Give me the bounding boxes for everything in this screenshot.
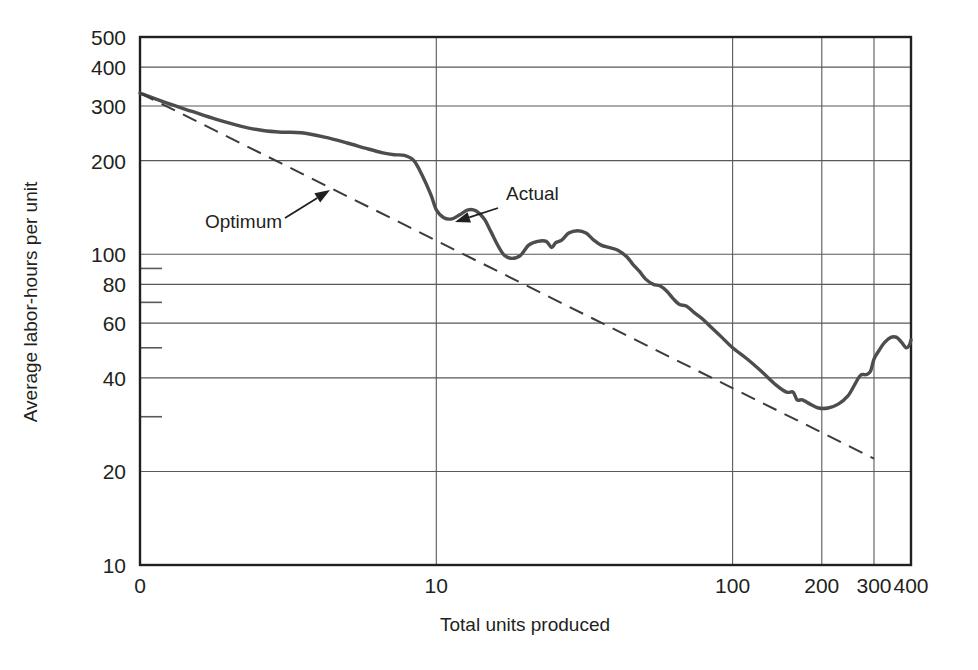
y-tick-label-60: 60 <box>103 312 126 335</box>
chart-container: 5004003002001008060402010 01010020030040… <box>0 0 978 670</box>
y-tick-label-20: 20 <box>103 460 126 483</box>
annotation-label-actual: Actual <box>506 183 559 204</box>
y-tick-label-40: 40 <box>103 367 126 390</box>
chart-background <box>0 0 978 670</box>
y-tick-label-200: 200 <box>91 150 126 173</box>
y-tick-label-80: 80 <box>103 273 126 296</box>
x-tick-label-400: 400 <box>893 574 928 597</box>
y-axis-title: Average labor-hours per unit <box>20 181 41 422</box>
learning-curve-chart: 5004003002001008060402010 01010020030040… <box>0 0 978 670</box>
x-axis-title: Total units produced <box>440 614 610 635</box>
y-tick-label-100: 100 <box>91 243 126 266</box>
y-tick-label-400: 400 <box>91 56 126 79</box>
y-tick-label-500: 500 <box>91 26 126 49</box>
y-tick-label-10: 10 <box>103 554 126 577</box>
x-tick-label-10: 10 <box>425 574 448 597</box>
x-tick-label-300: 300 <box>856 574 891 597</box>
y-tick-label-300: 300 <box>91 95 126 118</box>
x-tick-label-100: 100 <box>715 574 750 597</box>
annotation-label-optimum: Optimum <box>205 211 282 232</box>
x-tick-label-200: 200 <box>804 574 839 597</box>
x-tick-label-0: 0 <box>134 574 146 597</box>
